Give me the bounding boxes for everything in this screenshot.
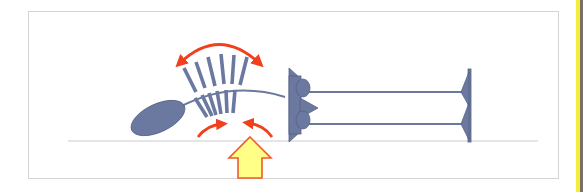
right-anchor <box>461 69 471 142</box>
inward-arrow-left <box>198 124 222 137</box>
fibers <box>306 92 463 124</box>
cell-body <box>126 93 190 143</box>
cilia-fan <box>184 54 247 117</box>
left-anchor <box>289 68 318 142</box>
inward-arrows <box>198 123 272 137</box>
diagram-canvas <box>0 0 583 192</box>
stimulus-arrow <box>229 137 271 178</box>
inward-arrow-right <box>248 123 272 137</box>
